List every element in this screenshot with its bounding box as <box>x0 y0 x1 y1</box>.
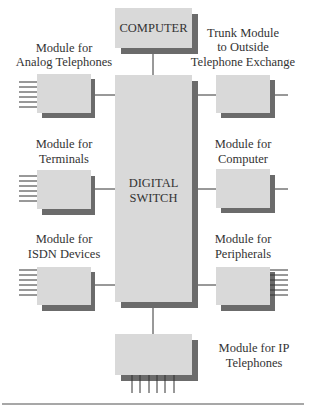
computer-box-label: COMPUTER <box>119 21 188 35</box>
digital-switch-label-line2: SWITCH <box>130 191 178 205</box>
terminal-lines-icon <box>19 176 37 201</box>
trunk-label-line3: Telephone Exchange <box>191 55 296 69</box>
module-peripherals: Module for Peripherals <box>215 232 288 311</box>
computer-module-label-line1: Module for <box>215 137 272 151</box>
module-terminals: Module for Terminals <box>19 137 95 215</box>
trunk-label-line1: Trunk Module <box>207 26 280 40</box>
trunk-label-line2: to Outside <box>217 40 269 54</box>
digital-switch-label-line1: DIGITAL <box>129 176 179 190</box>
terminals-label-line2: Terminals <box>39 152 89 166</box>
isdn-label-line1: Module for <box>36 232 93 246</box>
ip-label-line1: Module for IP <box>219 341 290 355</box>
isdn-lines-icon <box>19 270 37 295</box>
module-computer: Module for Computer <box>215 137 275 213</box>
module-ip-telephones: Module for IP Telephones <box>115 334 289 393</box>
module-isdn-devices: Module for ISDN Devices <box>19 232 100 311</box>
computer-module-label-line2: Computer <box>218 152 269 166</box>
analog-label-line2: Analog Telephones <box>16 55 113 69</box>
module-analog-telephones: Module for Analog Telephones <box>16 41 113 118</box>
terminals-label-line1: Module for <box>36 137 93 151</box>
peripherals-label-line1: Module for <box>215 232 272 246</box>
digital-switch-diagram: COMPUTER DIGITAL SWITCH Module for Analo… <box>0 0 309 411</box>
analog-lines-icon <box>19 82 37 107</box>
module-trunk: Trunk Module to Outside Telephone Exchan… <box>191 26 296 118</box>
peripherals-label-line2: Peripherals <box>215 247 271 261</box>
ip-label-line2: Telephones <box>226 356 283 370</box>
computer-box: COMPUTER <box>115 8 198 54</box>
digital-switch-box: DIGITAL SWITCH <box>115 75 198 308</box>
analog-label-line1: Module for <box>36 41 93 55</box>
isdn-label-line2: ISDN Devices <box>28 247 101 261</box>
